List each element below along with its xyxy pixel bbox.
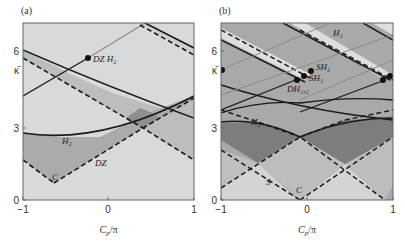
panel-title: (a) — [21, 5, 32, 17]
x-axis-label: Cp/π — [100, 224, 118, 237]
DZ-H2-point — [85, 55, 91, 61]
panel-b: H₁SH₂SH₁DH₁,₂H₂SC(b)6κ̄30−101Cp/π — [211, 5, 396, 237]
y-tick-label: 3 — [211, 123, 217, 134]
y-tick-label: κ̄ — [212, 65, 219, 76]
SH1-point — [301, 73, 307, 79]
x-tick-label: 0 — [105, 204, 111, 215]
label-SH2: SH₂ — [316, 62, 330, 72]
panel-a: DZ H₂H₂DZC(a)6κ̄30−101Cp/π — [13, 5, 197, 237]
kappa-point — [219, 67, 225, 73]
label-H1: H₁ — [332, 28, 343, 38]
plot-area — [23, 23, 194, 200]
label-C: C — [296, 185, 303, 195]
panel-title: (b) — [219, 5, 231, 17]
y-tick-label: κ̄ — [14, 65, 21, 76]
x-tick-label: 0 — [304, 204, 310, 215]
label-H2: H₂ — [250, 117, 261, 127]
y-tick-label: 6 — [211, 46, 217, 57]
label-SH1: SH₁ — [309, 73, 323, 83]
right-point-1 — [380, 77, 386, 83]
label-DZ: DZ — [94, 158, 107, 168]
label-C: C — [52, 172, 59, 182]
y-tick-label: 6 — [13, 46, 19, 57]
label-DH12: DH₁,₂ — [286, 84, 309, 94]
y-tick-label: 3 — [13, 123, 19, 134]
label-H2: H₂ — [61, 136, 72, 146]
label-DZ-H2: DZ H₂ — [92, 54, 116, 64]
x-tick-label: −1 — [215, 204, 227, 215]
x-axis-label: Cp/π — [298, 224, 316, 237]
right-point-2 — [387, 73, 393, 79]
x-tick-label: 1 — [390, 204, 396, 215]
x-tick-label: −1 — [17, 204, 29, 215]
label-S: S — [266, 177, 271, 187]
DH12-point — [294, 77, 300, 83]
x-tick-label: 1 — [191, 204, 197, 215]
figure: DZ H₂H₂DZC(a)6κ̄30−101Cp/π H₁SH₂SH₁DH₁,₂… — [0, 0, 405, 245]
plot-area — [219, 23, 393, 200]
